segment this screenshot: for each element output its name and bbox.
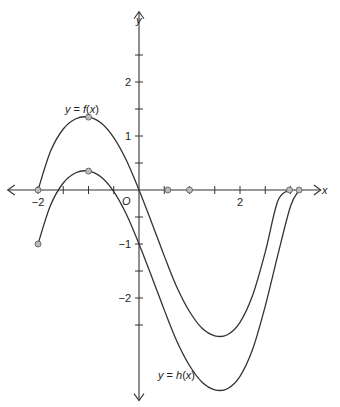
markers [35,114,302,247]
series-label-h: y = h(x) [157,369,195,381]
x-tick-label: −2 [32,196,45,208]
y-tick-label: −1 [118,238,131,250]
series-label-part: ) [191,369,195,381]
curve-h [38,171,299,391]
x-tick-label: 2 [237,196,243,208]
curve-f-marker [35,187,41,193]
curve-f-marker [86,114,92,120]
curve-f [38,117,289,337]
series-label-part: ) [95,103,99,115]
curve-h-marker [35,241,41,247]
labels: x y O −2221−1−2y = f(x)y = h(x) [32,14,328,381]
curve-h-marker [86,168,92,174]
series-label-part: = [164,369,177,381]
chart: x y O −2221−1−2y = f(x)y = h(x) [0,0,340,407]
axes [8,12,321,401]
x-axis-marker [187,187,193,193]
curve-f-marker [286,187,292,193]
x-axis-marker [165,187,171,193]
x-axis-label: x [321,184,328,196]
series-label-part: = [71,103,84,115]
y-tick-label: 1 [125,130,131,142]
y-tick-label: −2 [118,292,131,304]
series-label-f: y = f(x) [64,103,99,115]
curve-h-marker [296,187,302,193]
y-tick-label: 2 [125,76,131,88]
origin-label: O [122,195,131,207]
curves [38,117,299,391]
